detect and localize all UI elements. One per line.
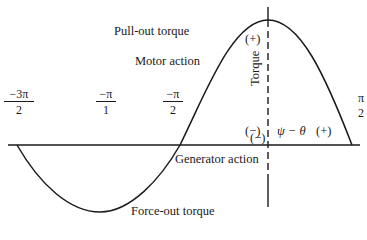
angle-axis-label: ψ − θ xyxy=(277,125,306,138)
torque-axis-label: Torque xyxy=(248,51,263,86)
tick-minus-3pi-over-2: −3π 2 xyxy=(4,88,34,116)
positive-angle-sign: (+) xyxy=(316,125,331,138)
generator-action-label: Generator action xyxy=(175,153,259,166)
pull-out-torque-label: Pull-out torque xyxy=(114,25,189,38)
tick-minus-pi: −π 1 xyxy=(96,88,116,116)
motor-action-label: Motor action xyxy=(135,55,200,68)
tick-minus-pi-over-2: −π 2 xyxy=(163,88,183,116)
negative-torque-sign: (−) xyxy=(250,132,265,145)
positive-torque-sign: (+) xyxy=(245,33,260,46)
tick-pi-over-2: π 2 xyxy=(355,92,367,119)
force-out-torque-label: Force-out torque xyxy=(131,205,215,218)
torque-curve xyxy=(17,20,352,212)
